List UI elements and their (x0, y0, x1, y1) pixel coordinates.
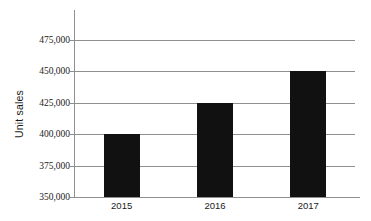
gridline (70, 197, 355, 198)
y-axis-tick-label: 400,000 (10, 129, 70, 139)
y-axis-tick-labels: 475,000450,000425,000400,000375,000350,0… (8, 40, 70, 197)
x-axis-tick-label: 2017 (278, 199, 338, 213)
x-axis-tick-labels: 201520162017 (75, 199, 355, 215)
y-axis-tick-label: 375,000 (10, 161, 70, 171)
x-axis-tick-label: 2015 (92, 199, 152, 213)
bar (197, 103, 233, 197)
y-axis-tick-label: 425,000 (10, 98, 70, 108)
bar-chart: Unit sales 475,000450,000425,000400,0003… (0, 0, 371, 221)
y-axis-tick-label: 475,000 (10, 35, 70, 45)
y-axis-tick-label: 450,000 (10, 66, 70, 76)
bar (290, 71, 326, 197)
x-axis-tick-label: 2016 (185, 199, 245, 213)
bar (104, 134, 140, 197)
bars-layer (75, 40, 355, 197)
y-axis-tick-label: 350,000 (10, 192, 70, 202)
